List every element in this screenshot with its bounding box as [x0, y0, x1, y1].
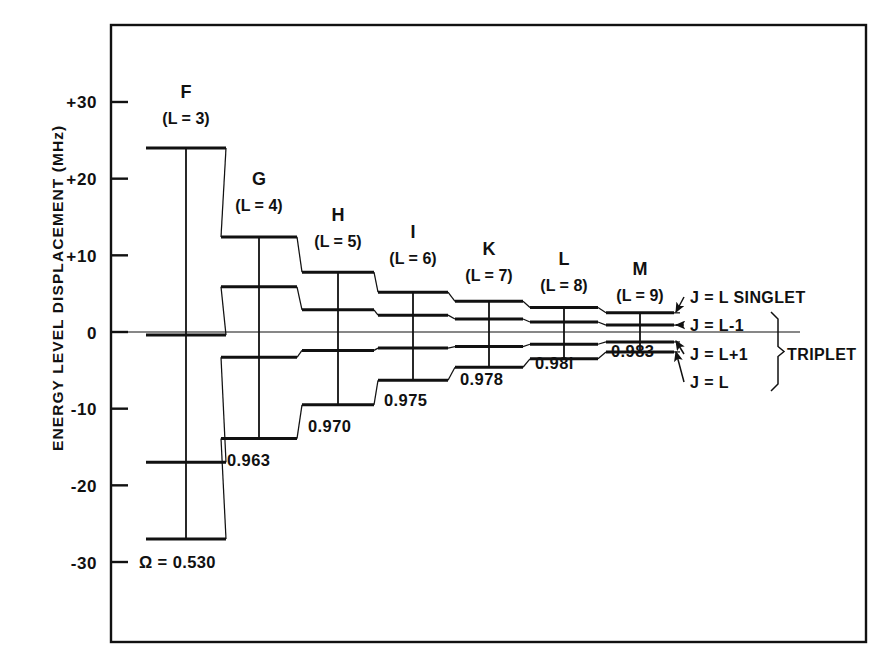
column-letter: G — [252, 169, 266, 189]
column-l-value: (L = 8) — [540, 277, 587, 294]
level-connector — [374, 272, 378, 292]
omega-value-label: 0.978 — [460, 370, 503, 388]
column-letter: H — [332, 205, 345, 225]
column-letter: F — [181, 82, 192, 102]
level-connector — [448, 292, 455, 301]
annotation-arrow — [676, 352, 684, 382]
annotation-arrow — [676, 297, 684, 312]
series-annotation-label: J = L — [690, 374, 729, 391]
y-axis-title: ENERGY LEVEL DISPLACEMENT (MHz) — [49, 151, 67, 451]
level-connector — [221, 148, 226, 237]
level-connector — [374, 348, 378, 350]
triplet-bracket — [771, 312, 784, 391]
omega-value-label: Ω = 0.530 — [139, 553, 216, 571]
y-tick-label: 0 — [87, 324, 97, 343]
energy-levels — [146, 148, 674, 539]
level-connector — [297, 237, 302, 272]
y-axis: +30+20+100-10-20-30 — [66, 93, 128, 572]
energy-level-diagram: +30+20+100-10-20-30 F(L = 3)G(L = 4)H(L … — [0, 0, 880, 671]
level-connector — [448, 367, 455, 380]
column-l-value: (L = 4) — [235, 197, 282, 214]
level-connector — [523, 319, 530, 322]
level-connector — [448, 347, 455, 349]
level-connector — [598, 342, 606, 344]
y-tick-label: +30 — [66, 93, 97, 112]
series-annotations: J = L SINGLETJ = L-1J = L+1J = LTRIPLET — [676, 289, 856, 391]
omega-value-label: 0.975 — [384, 391, 427, 409]
level-connector — [297, 287, 302, 310]
level-connector — [297, 405, 302, 439]
level-connector — [448, 315, 455, 319]
omega-value-label: 0.98l — [535, 354, 574, 372]
y-tick-label: -30 — [71, 554, 97, 573]
column-l-value: (L = 3) — [162, 110, 209, 127]
level-connector — [523, 301, 530, 307]
figure-canvas: ENERGY LEVEL DISPLACEMENT (MHz) +30+20+1… — [0, 0, 880, 671]
column-l-value: (L = 5) — [314, 233, 361, 250]
level-connector — [297, 350, 302, 357]
column-l-value: (L = 6) — [389, 250, 436, 267]
level-connector — [598, 322, 606, 325]
column-letter: I — [410, 222, 415, 242]
column-l-value: (L = 9) — [616, 287, 663, 304]
column-letter: L — [559, 249, 570, 269]
series-annotation-label: J = L-1 — [690, 317, 744, 334]
column-l-value: (L = 7) — [465, 267, 512, 284]
column-letter: M — [633, 259, 648, 279]
level-connector — [598, 307, 606, 312]
y-tick-label: +10 — [66, 247, 97, 266]
series-annotation-label: J = L SINGLET — [690, 289, 806, 306]
column-labels: F(L = 3)G(L = 4)H(L = 5)I(L = 6)K(L = 7)… — [162, 82, 663, 304]
omega-value-label: 0.983 — [611, 342, 654, 360]
omega-labels: Ω = 0.5300.9630.9700.9750.9780.98l0.983 — [139, 342, 654, 571]
y-tick-label: -20 — [71, 477, 97, 496]
triplet-label: TRIPLET — [787, 346, 856, 363]
omega-value-label: 0.963 — [227, 451, 270, 469]
omega-value-label: 0.970 — [308, 417, 351, 435]
level-connector — [523, 359, 530, 367]
level-connector — [374, 310, 378, 315]
y-tick-label: -10 — [71, 400, 97, 419]
column-letter: K — [483, 239, 496, 259]
y-tick-label: +20 — [66, 170, 97, 189]
level-connector — [598, 352, 606, 359]
level-connector — [523, 344, 530, 346]
level-connector — [374, 380, 378, 405]
level-connector — [221, 287, 226, 335]
series-annotation-label: J = L+1 — [690, 346, 748, 363]
